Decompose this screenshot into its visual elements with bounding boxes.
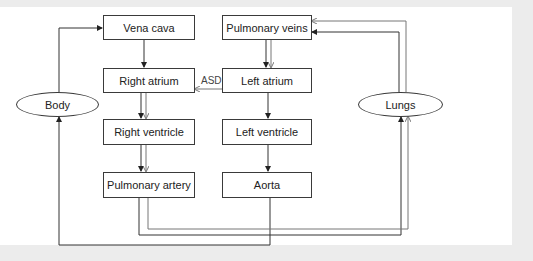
node-pulmonary-veins: Pulmonary veins xyxy=(222,15,312,40)
node-pulmonary-artery-label: Pulmonary artery xyxy=(107,179,191,191)
node-vena-cava: Vena cava xyxy=(103,15,195,40)
node-left-atrium: Left atrium xyxy=(222,68,312,93)
node-right-ventricle-label: Right ventricle xyxy=(114,126,184,138)
edge-label-asd: ASD xyxy=(201,75,222,86)
node-lungs: Lungs xyxy=(358,92,443,117)
node-vena-cava-label: Vena cava xyxy=(123,22,174,34)
node-right-atrium: Right atrium xyxy=(103,68,195,93)
node-left-atrium-label: Left atrium xyxy=(241,75,293,87)
node-aorta: Aorta xyxy=(222,172,312,198)
node-right-atrium-label: Right atrium xyxy=(119,75,178,87)
edge-body-to-vena-cava xyxy=(59,28,102,92)
node-lungs-label: Lungs xyxy=(386,99,416,111)
node-aorta-label: Aorta xyxy=(254,179,280,191)
node-left-ventricle-label: Left ventricle xyxy=(236,126,298,138)
node-pulmonary-veins-label: Pulmonary veins xyxy=(226,22,307,34)
edge-lungs-to-pulmonary-veins-dark xyxy=(312,32,399,92)
node-body-label: Body xyxy=(45,99,70,111)
node-left-ventricle: Left ventricle xyxy=(222,119,312,145)
node-body: Body xyxy=(16,92,99,117)
node-pulmonary-artery: Pulmonary artery xyxy=(103,172,195,198)
node-right-ventricle: Right ventricle xyxy=(103,119,195,145)
